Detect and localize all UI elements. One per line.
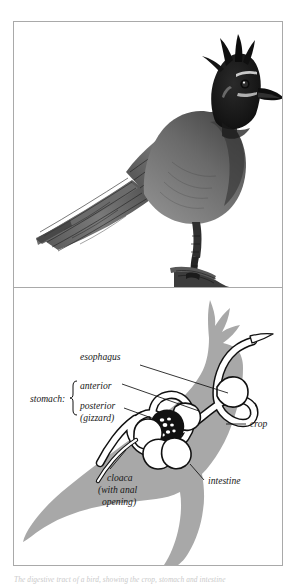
label-stomach-anterior: anterior [80,380,112,391]
label-cloaca-line1: cloaca [107,472,133,483]
label-crop: crop [250,418,267,429]
label-cloaca-line2: (with anal [98,484,138,496]
label-cloaca-line3: opening) [102,496,136,508]
figure-frame: .lbl { font-family: "Liberation Serif", … [13,21,283,566]
bird-tail [36,178,154,251]
label-esophagus: esophagus [80,351,121,362]
label-stomach-posterior-line1: posterior [79,400,115,411]
figure-page: .lbl { font-family: "Liberation Serif", … [0,0,296,588]
figure-caption: The digestive tract of a bird, showing t… [14,575,282,588]
stomach-bracket [70,381,77,415]
bird-legs-and-perch [170,222,232,287]
panel-digestive-diagram: .lbl { font-family: "Liberation Serif", … [14,288,282,565]
bird-illustration-drawing [14,22,282,287]
label-stomach-group: stomach: [30,393,65,404]
panel-bird-illustration [14,22,282,287]
label-intestine: intestine [208,475,241,486]
figure-caption-text: The digestive tract of a bird, showing t… [14,575,226,584]
digestive-tract-diagram: .lbl { font-family: "Liberation Serif", … [14,288,282,565]
label-stomach-posterior-line2: (gizzard) [80,412,114,424]
